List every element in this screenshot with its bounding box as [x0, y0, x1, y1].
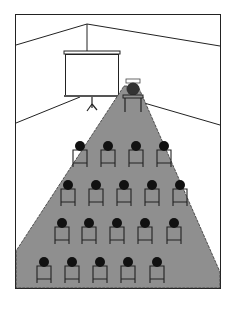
head-icon: [152, 257, 162, 267]
head-icon: [95, 257, 105, 267]
head-icon: [103, 141, 113, 151]
head-icon: [123, 257, 133, 267]
head-icon: [147, 180, 157, 190]
classroom-diagram: [0, 0, 232, 310]
head-icon: [140, 218, 150, 228]
projector-icon: [127, 83, 140, 96]
head-icon: [91, 180, 101, 190]
head-icon: [159, 141, 169, 151]
head-icon: [84, 218, 94, 228]
head-icon: [75, 141, 85, 151]
head-icon: [112, 218, 122, 228]
head-icon: [175, 180, 185, 190]
head-icon: [39, 257, 49, 267]
head-icon: [131, 141, 141, 151]
head-icon: [67, 257, 77, 267]
head-icon: [119, 180, 129, 190]
head-icon: [169, 218, 179, 228]
head-icon: [63, 180, 73, 190]
head-icon: [57, 218, 67, 228]
